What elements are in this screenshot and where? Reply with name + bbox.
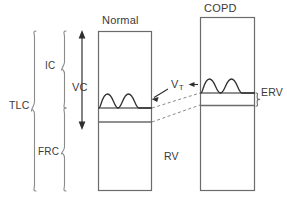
erv-brace xyxy=(256,93,260,106)
frc-label: FRC xyxy=(38,147,59,157)
vc-arrow-head-top xyxy=(79,30,86,39)
vt-arrow-normal xyxy=(152,89,169,102)
vt-arrow-copd xyxy=(189,82,199,87)
lung-volumes-diagram: TLC IC FRC VC Normal COPD RV ERV VT xyxy=(0,0,287,201)
vc-double-arrow xyxy=(79,30,86,130)
tlc-brace xyxy=(32,31,37,191)
normal-box-outline xyxy=(99,32,152,191)
tlc-label: TLC xyxy=(9,100,29,111)
erv-label: ERV xyxy=(261,87,283,98)
normal-column-box xyxy=(99,32,152,191)
rv-label: RV xyxy=(164,151,179,162)
vc-arrow-head-bottom xyxy=(79,122,86,131)
dashed-tidal-link xyxy=(152,93,200,108)
frc-brace xyxy=(62,108,67,191)
vt-label-subscript: T xyxy=(179,83,184,92)
dashed-connectors xyxy=(152,93,200,122)
copd-box-outline xyxy=(201,18,255,191)
copd-column-header: COPD xyxy=(204,3,237,14)
dashed-frc-link xyxy=(152,105,200,122)
diagram-vector-layer xyxy=(0,0,287,201)
vt-label-main: V xyxy=(171,78,179,90)
copd-column-box xyxy=(201,18,255,191)
vt-label: VT xyxy=(171,79,183,90)
normal-column-header: Normal xyxy=(102,15,139,26)
ic-brace xyxy=(62,31,67,108)
ic-label: IC xyxy=(45,61,55,71)
vc-label: VC xyxy=(72,82,88,93)
